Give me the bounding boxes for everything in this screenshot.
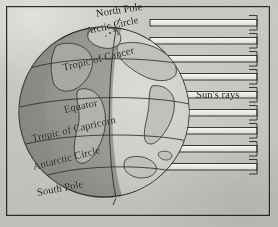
figure-border [6, 6, 270, 216]
figure-canvas: North Pole Arctic Circle Tropic of Cance… [0, 0, 278, 227]
